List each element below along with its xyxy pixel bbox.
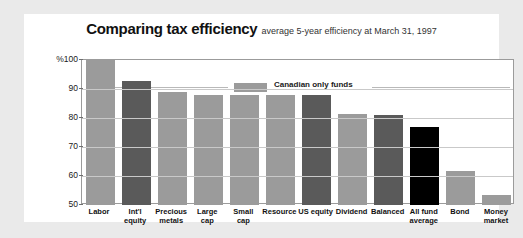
chart-header: Comparing tax efficiencyaverage 5-year e… <box>24 20 499 38</box>
y-axis: 5060708090%100 <box>44 59 78 204</box>
y-axis-tick <box>79 175 83 176</box>
chart-subtitle: average 5-year efficiency at March 31, 1… <box>261 26 436 36</box>
gridline <box>82 118 513 119</box>
x-axis-labels: LaborInt'lequityPreciousmetalsLargecapSm… <box>81 207 514 238</box>
bar <box>86 60 115 205</box>
chart-card: Comparing tax efficiencyaverage 5-year e… <box>24 14 499 222</box>
bar <box>410 127 439 205</box>
bar <box>338 114 367 205</box>
y-axis-tick-label: 60 <box>48 170 78 180</box>
bar <box>302 95 331 205</box>
y-axis-tick-label: 90 <box>48 83 78 93</box>
gridline <box>82 89 513 90</box>
y-axis-tick <box>79 146 83 147</box>
bar <box>230 95 259 205</box>
chart-page: Comparing tax efficiencyaverage 5-year e… <box>0 0 523 238</box>
y-axis-tick <box>79 204 83 205</box>
y-axis-tick-label: 80 <box>48 112 78 122</box>
x-axis-label-line: Money <box>474 207 518 216</box>
bar <box>158 92 187 205</box>
plot-area: Canadian only funds <box>81 59 514 204</box>
bar-series <box>82 60 515 205</box>
y-axis-tick-label: 70 <box>48 141 78 151</box>
bar <box>482 195 511 205</box>
bar <box>122 81 151 205</box>
x-axis-label-line: market <box>474 216 518 225</box>
bar <box>194 95 223 205</box>
x-axis-label: Moneymarket <box>474 207 518 225</box>
gridline <box>82 147 513 148</box>
x-axis-label-line: cap <box>221 216 265 225</box>
y-axis-tick <box>79 88 83 89</box>
y-axis-tick <box>79 117 83 118</box>
y-axis-tick-label: 50 <box>48 199 78 209</box>
x-axis-label-line: average <box>402 216 446 225</box>
bar <box>374 115 403 205</box>
page-title: Comparing tax efficiency <box>86 20 257 37</box>
y-axis-tick-label: %100 <box>48 54 78 64</box>
gridline <box>82 176 513 177</box>
y-axis-tick <box>79 59 83 60</box>
bar <box>266 95 295 205</box>
